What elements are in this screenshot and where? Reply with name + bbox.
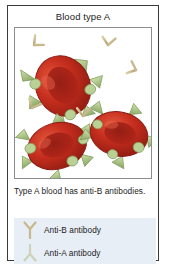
antibody-b-icon: [100, 37, 115, 54]
caption-text: Type A blood has anti-B antibodies.: [14, 184, 154, 199]
blood-type-a-illustration: [14, 27, 152, 179]
antibody-a-icon: [19, 242, 41, 264]
page-title: Blood type A: [8, 11, 158, 23]
blood-type-card: Blood type A: [7, 5, 159, 261]
legend-label-anti-b: Anti-B antibody: [44, 225, 101, 235]
antibody-b-icon: [19, 219, 41, 241]
legend-item-anti-a: Anti-A antibody: [14, 241, 156, 264]
antibody-b-icon: [76, 108, 90, 125]
antibody-b-icon: [127, 61, 146, 79]
legend-label-anti-a: Anti-A antibody: [44, 248, 101, 258]
legend: Anti-B antibody Anti-A antibody: [14, 218, 156, 264]
legend-item-anti-b: Anti-B antibody: [14, 218, 156, 241]
antibody-b-icon: [24, 35, 44, 55]
